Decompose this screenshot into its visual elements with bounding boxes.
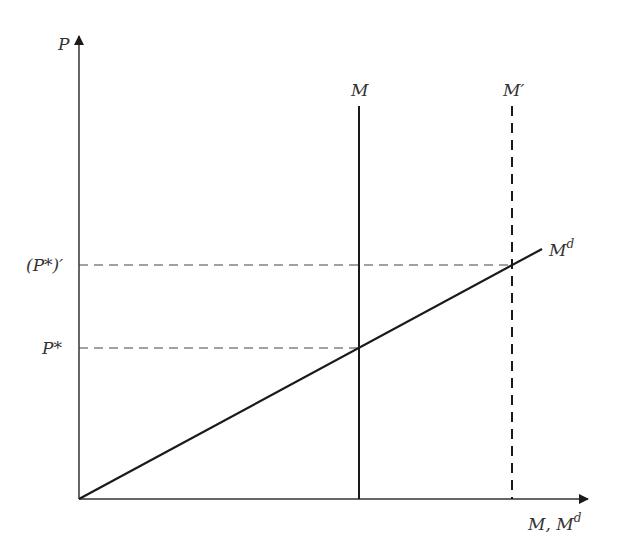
- money-supply-new-label: M′: [502, 80, 524, 100]
- p-star-prime-label: (P*)′: [26, 255, 63, 275]
- money-demand-line: [79, 249, 542, 499]
- money-market-diagram: P M, Md P* (P*)′ M M′ Md: [0, 0, 617, 555]
- p-star-label: P*: [41, 338, 62, 358]
- money-supply-label: M: [350, 80, 369, 100]
- y-axis-label: P: [57, 34, 70, 54]
- x-axis-label: M, Md: [527, 511, 582, 534]
- money-demand-label: Md: [548, 237, 574, 260]
